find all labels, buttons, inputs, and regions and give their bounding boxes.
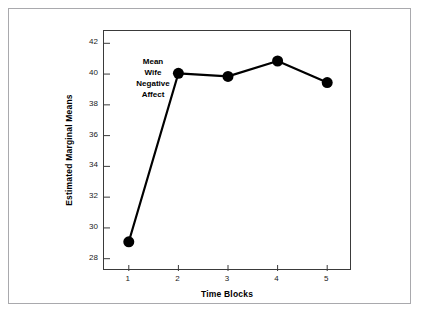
annotation-line-2: Wife [125,67,181,78]
chart-figure: 2830323436384042 12345 Estimated Margina… [0,0,421,314]
y-axis-label: Estimated Marginal Means [64,94,74,206]
annotation-line-1: Mean [125,56,181,67]
x-tick-label: 1 [118,274,138,283]
annotation-line-3: Negative [125,78,181,89]
series-annotation-label: Mean Wife Negative Affect [125,56,181,100]
x-tick-label: 4 [267,274,287,283]
x-axis-label: Time Blocks [103,289,351,299]
x-tick-label: 3 [217,274,237,283]
x-tick-label: 5 [316,274,336,283]
annotation-line-4: Affect [125,89,181,100]
x-tick-label: 2 [167,274,187,283]
y-axis-label-container: Estimated Marginal Means [62,30,76,270]
